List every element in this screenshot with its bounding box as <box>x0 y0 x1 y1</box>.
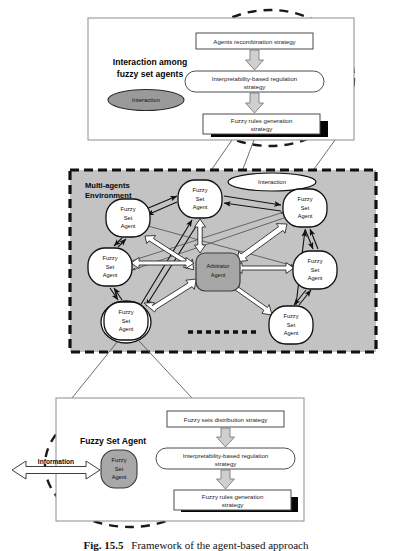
top-panel: Interaction among fuzzy set agents Inter… <box>88 18 354 140</box>
agent-left-line3: Agent <box>103 272 118 278</box>
fuzzy-set-agent-node[interactable]: Fuzzy Set Agent <box>101 450 137 488</box>
agent-right[interactable]: Fuzzy Set Agent <box>293 251 337 289</box>
bottom-flow-box-3-label-line2: strategy <box>222 501 245 508</box>
interaction-badge-environment-label: Interaction <box>258 179 286 185</box>
top-panel-heading-line2: fuzzy set agents <box>117 69 184 79</box>
top-flow-box-2-label-line1: Interpretability-based regulation <box>212 75 297 82</box>
agent-upper-left-line1: Fuzzy <box>121 206 136 212</box>
arbitrator-agent[interactable]: Arbitrator Agent <box>196 253 240 291</box>
agent-right-line1: Fuzzy <box>308 258 323 264</box>
bottom-flow-box-3-label-line1: Fuzzy rules generation <box>202 493 264 500</box>
agent-upper-right[interactable]: Fuzzy Set Agent <box>283 189 327 227</box>
top-panel-heading-line1: Interaction among <box>113 57 188 67</box>
arbitrator-agent-line2: Agent <box>211 272 226 278</box>
caption-label: Fig. 15.5 <box>84 539 125 551</box>
bottom-panel-heading: Fuzzy Set Agent <box>80 436 146 446</box>
agent-lower-left-line1: Fuzzy <box>119 309 134 315</box>
agent-top-line3: Agent <box>193 204 208 210</box>
top-flow-box-2-label-line2: strategy <box>244 83 267 90</box>
agent-lower-left-line3: Agent <box>119 326 134 332</box>
bottom-flow-box-2-label-line2: strategy <box>215 460 238 467</box>
fuzzy-set-agent-node-line1: Fuzzy <box>112 457 127 463</box>
agent-left[interactable]: Fuzzy Set Agent <box>88 248 132 286</box>
agent-upper-right-line2: Set <box>301 205 310 211</box>
bottom-panel: Fuzzy Set Agent Information Fuzzy Set Ag… <box>12 398 304 521</box>
information-label: Information <box>38 458 74 465</box>
environment-title-line1: Multi-agents <box>85 181 130 190</box>
agent-top-line1: Fuzzy <box>193 187 208 193</box>
agent-upper-left-line3: Agent <box>121 223 136 229</box>
top-flow-box-3-label-line2: strategy <box>251 125 274 132</box>
figure-canvas: Interaction among fuzzy set agents Inter… <box>0 0 393 551</box>
caption-text: Framework of the agent-based approach <box>131 539 309 551</box>
figure-caption: Fig. 15.5 Framework of the agent-based a… <box>84 539 309 551</box>
svg-text:Fig. 15.5 Framework of t: Fig. 15.5 Framework of the agent-based a… <box>84 539 309 551</box>
agent-lower-left-line2: Set <box>122 318 131 324</box>
agent-left-line1: Fuzzy <box>103 255 118 261</box>
agent-lower-right-line3: Agent <box>284 330 299 336</box>
fuzzy-set-agent-node-line3: Agent <box>112 474 127 480</box>
bottom-flow-box-1-label: Fuzzy sets distribution strategy <box>184 416 269 423</box>
agent-right-line2: Set <box>311 267 320 273</box>
framework-diagram: Interaction among fuzzy set agents Inter… <box>0 0 393 551</box>
arbitrator-agent-line1: Arbitrator <box>206 263 229 269</box>
agent-lower-right-line2: Set <box>287 322 296 328</box>
agent-top[interactable]: Fuzzy Set Agent <box>178 180 222 218</box>
bottom-flow-box-2-label-line1: Interpretability-based regulation <box>183 452 268 459</box>
agent-upper-left[interactable]: Fuzzy Set Agent <box>106 199 150 237</box>
top-flow-box-1-label: Agents recombination strategy <box>213 38 296 45</box>
top-flow-box-3-label-line1: Fuzzy rules generation <box>231 117 293 124</box>
agent-upper-left-line2: Set <box>124 215 133 221</box>
fuzzy-set-agent-node-line2: Set <box>115 466 124 472</box>
agent-left-line2: Set <box>106 264 115 270</box>
agent-upper-right-line1: Fuzzy <box>298 196 313 202</box>
agent-lower-right[interactable]: Fuzzy Set Agent <box>269 306 313 344</box>
agent-lower-left[interactable]: Fuzzy Set Agent <box>104 302 148 340</box>
agent-right-line3: Agent <box>308 275 323 281</box>
multi-agents-environment: Multi-agents Environment <box>70 170 376 352</box>
agent-lower-right-line1: Fuzzy <box>284 313 299 319</box>
agent-top-line2: Set <box>196 196 205 202</box>
agent-upper-right-line3: Agent <box>298 213 313 219</box>
interaction-badge-top-label: Interaction <box>132 97 160 103</box>
